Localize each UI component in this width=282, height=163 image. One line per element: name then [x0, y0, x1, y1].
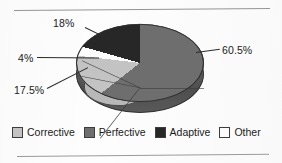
slice-boundary-perfective-start — [140, 88, 204, 89]
top-divider-rule — [14, 8, 270, 11]
legend-item-adaptive[interactable]: Adaptive — [155, 126, 211, 138]
legend-swatch-adaptive — [155, 127, 166, 138]
chart-legend: Corrective Perfective Adaptive Other — [12, 126, 274, 138]
legend-label-corrective: Corrective — [27, 126, 75, 138]
data-label-perfective: 60.5% — [222, 44, 252, 56]
leader-line-other — [37, 57, 99, 59]
legend-swatch-perfective — [84, 127, 95, 138]
pie-top-outline — [76, 24, 204, 102]
pie-chart-graphic — [76, 24, 204, 116]
legend-label-perfective: Perfective — [99, 126, 146, 138]
legend-item-other[interactable]: Other — [219, 126, 260, 138]
legend-label-adaptive: Adaptive — [170, 126, 211, 138]
data-label-other: 4% — [18, 52, 33, 64]
pie-chart-figure: 18% 60.5% 4% 17.5% Corrective Perfective… — [0, 0, 282, 163]
legend-item-perfective[interactable]: Perfective — [84, 126, 146, 138]
legend-swatch-corrective — [12, 127, 23, 138]
data-label-corrective: 17.5% — [14, 84, 44, 96]
legend-label-other: Other — [234, 126, 260, 138]
legend-item-corrective[interactable]: Corrective — [12, 126, 75, 138]
legend-swatch-other — [219, 127, 230, 138]
bottom-divider-rule — [17, 154, 269, 157]
data-label-adaptive: 18% — [53, 17, 74, 29]
